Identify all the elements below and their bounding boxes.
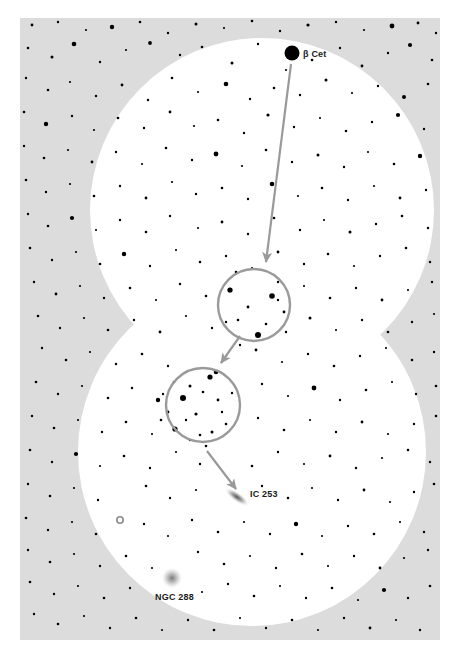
star-point — [343, 617, 345, 619]
star-point — [169, 497, 171, 499]
star-point — [103, 597, 106, 600]
star-point — [281, 361, 283, 363]
star-point — [363, 489, 366, 492]
star-point — [361, 421, 364, 424]
star-point — [297, 195, 299, 197]
star-point — [227, 583, 229, 585]
star-point — [387, 52, 389, 54]
star-point — [429, 261, 431, 263]
star-chart-root: β CetIC 253NGC 288 — [0, 0, 462, 653]
star-point — [77, 585, 79, 587]
star-point — [361, 319, 363, 321]
star-point — [99, 61, 101, 63]
star-point — [95, 229, 97, 231]
star-point — [155, 299, 157, 301]
star-point — [107, 329, 110, 332]
star-point — [29, 247, 32, 250]
star-point — [119, 185, 121, 187]
star-point — [81, 385, 83, 387]
star-point — [243, 521, 245, 523]
star-point — [393, 163, 396, 166]
star-point — [97, 499, 99, 501]
star-point — [299, 229, 301, 231]
star-point — [161, 629, 163, 631]
star-point — [201, 46, 204, 49]
star-point — [237, 319, 240, 322]
star-point — [91, 161, 94, 164]
star-point — [23, 111, 26, 114]
star-point — [355, 467, 357, 469]
star-point — [27, 549, 29, 551]
white-lobes — [78, 38, 434, 626]
star-point — [423, 531, 425, 533]
star-point — [239, 344, 241, 346]
star-point — [185, 315, 187, 317]
star-point — [194, 412, 197, 415]
star-point — [197, 551, 199, 553]
star-point — [273, 87, 276, 90]
star-point — [381, 457, 383, 459]
star-point — [141, 353, 144, 356]
star-point — [329, 455, 332, 458]
star-point — [266, 113, 269, 116]
star-point — [143, 127, 145, 129]
star-point — [217, 119, 220, 122]
label-ic-253: IC 253 — [250, 489, 278, 499]
star-point — [101, 431, 103, 433]
star-point — [145, 231, 148, 234]
star-point — [51, 56, 54, 59]
star-point — [109, 627, 111, 629]
star-point — [169, 215, 171, 217]
star-point — [71, 521, 73, 523]
star-point — [201, 591, 203, 593]
star-point — [306, 23, 309, 26]
star-point — [353, 555, 355, 557]
star-point — [199, 261, 202, 264]
star-point — [187, 619, 189, 621]
star-point — [214, 152, 219, 157]
star-point — [160, 419, 163, 422]
star-point — [311, 487, 313, 489]
star-point — [74, 452, 78, 456]
star-point — [385, 347, 387, 349]
star-point — [225, 321, 227, 323]
star-point — [389, 501, 391, 503]
star-point — [407, 289, 409, 291]
star-point — [231, 392, 233, 394]
star-point — [377, 85, 379, 87]
star-point — [225, 255, 227, 257]
star-point — [337, 499, 339, 501]
star-point — [159, 331, 162, 334]
star-point — [33, 281, 35, 283]
star-point — [379, 567, 382, 570]
star-point — [265, 149, 268, 152]
star-point — [265, 323, 268, 326]
star-point — [249, 555, 251, 557]
star-point — [277, 251, 280, 254]
star-point — [139, 21, 142, 24]
star-point — [303, 263, 305, 265]
lower-lobe — [78, 278, 426, 626]
star-point — [277, 451, 279, 453]
star-point — [283, 311, 286, 314]
star-point — [115, 363, 117, 365]
star-point — [195, 489, 197, 491]
star-point — [117, 117, 120, 120]
star-point — [347, 525, 349, 527]
star-point — [199, 463, 201, 465]
star-point — [85, 29, 87, 31]
star-point — [31, 24, 34, 27]
star-point — [171, 77, 174, 80]
star-point — [335, 329, 337, 331]
star-point — [199, 434, 202, 437]
star-point — [269, 533, 271, 535]
star-point — [25, 517, 28, 520]
label-ngc-288: NGC 288 — [155, 592, 194, 602]
star-point — [373, 185, 375, 187]
star-point — [27, 47, 30, 50]
star-point — [205, 445, 208, 448]
star-point — [402, 95, 406, 99]
star-point — [135, 617, 138, 620]
star-point — [147, 99, 149, 101]
star-point — [207, 374, 212, 379]
